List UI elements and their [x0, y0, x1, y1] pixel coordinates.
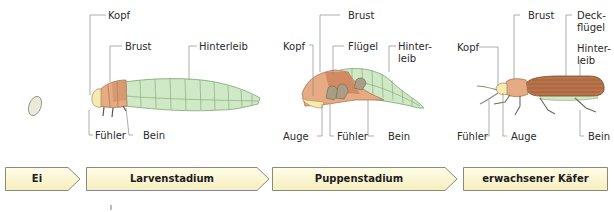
- pupa-label-kopf: Kopf: [283, 41, 305, 52]
- larva-label-hinterleib: Hinterleib: [199, 41, 248, 52]
- larva-label-kopf: Kopf: [108, 10, 130, 21]
- larva-illustration: [89, 15, 260, 135]
- stage-egg: Ei: [5, 167, 81, 191]
- pupa-label-fluegel: Flügel: [348, 41, 378, 52]
- adult-label-brust: Brust: [528, 10, 554, 21]
- stage-larva: Larvenstadium: [86, 167, 270, 191]
- pupa-label-auge: Auge: [283, 131, 309, 142]
- adult-label-auge: Auge: [511, 131, 537, 142]
- egg-illustration: [26, 95, 44, 118]
- stage-label: erwachsener Käfer: [463, 167, 608, 191]
- pupa-label-bein: Bein: [388, 131, 410, 142]
- pupa-illustration: [302, 15, 424, 136]
- larva-label-bein: Bein: [143, 130, 165, 141]
- adult-label-fuehler: Fühler: [457, 131, 488, 142]
- adult-beetle-illustration: [477, 15, 604, 136]
- adult-label-hinterleib-1: Hinter-: [577, 43, 611, 54]
- adult-label-hinterleib-2: leib: [577, 55, 595, 66]
- stage-label: Larvenstadium: [86, 167, 258, 191]
- larva-label-fuehler: Fühler: [95, 130, 126, 141]
- adult-label-kopf: Kopf: [457, 42, 479, 53]
- metamorphosis-diagram: Kopf Brust Hinterleib Fühler Bein Brust …: [0, 0, 614, 212]
- stage-label: Ei: [5, 167, 69, 191]
- pupa-label-brust: Brust: [348, 10, 374, 21]
- adult-label-deckfluegel-1: Deck-: [577, 10, 606, 21]
- pupa-label-fuehler: Fühler: [337, 131, 368, 142]
- adult-label-deckfluegel-2: flügel: [577, 22, 605, 33]
- pupa-label-hinterleib-1: Hinter-: [398, 41, 432, 52]
- pupa-label-hinterleib-2: leib: [398, 53, 416, 64]
- stage-label: Puppenstadium: [272, 167, 446, 191]
- adult-label-bein: Bein: [588, 131, 610, 142]
- stage-pupa: Puppenstadium: [272, 167, 458, 191]
- larva-label-brust: Brust: [125, 41, 151, 52]
- stage-adult: erwachsener Käfer: [463, 167, 608, 191]
